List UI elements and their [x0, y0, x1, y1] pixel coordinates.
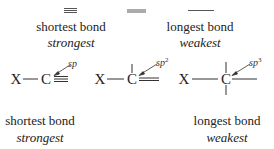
- sp2-label: sp2: [156, 57, 168, 68]
- triple-bond-icon: [64, 9, 77, 13]
- sp3-arrow-icon: [232, 64, 250, 76]
- bottom-right-caption-length: longest bond: [194, 114, 261, 127]
- top-right-caption-strength: weakest: [179, 36, 220, 49]
- sp2-substituent-x: X: [95, 72, 106, 87]
- bottom-left-caption-strength: strongest: [16, 131, 63, 144]
- sp2-arrow-icon: [139, 64, 157, 76]
- sp-substituent-x: X: [11, 72, 22, 87]
- sp-label: sp: [68, 58, 77, 69]
- sp3-substituent-x: X: [179, 72, 190, 87]
- bottom-left-caption-length: shortest bond: [5, 114, 75, 127]
- double-bond-icon: [127, 10, 146, 12]
- top-left-caption-length: shortest bond: [36, 20, 106, 33]
- sp2-carbon: C: [127, 72, 137, 87]
- sp3-label: sp3: [249, 57, 261, 68]
- sp-carbon: C: [41, 72, 51, 87]
- bond-strength-diagram: shortest bond strongest longest bond wea…: [0, 0, 274, 149]
- top-right-caption-length: longest bond: [167, 20, 234, 33]
- top-left-caption-strength: strongest: [47, 36, 94, 49]
- bottom-right-caption-strength: weakest: [206, 131, 247, 144]
- sp3-carbon: C: [221, 72, 231, 87]
